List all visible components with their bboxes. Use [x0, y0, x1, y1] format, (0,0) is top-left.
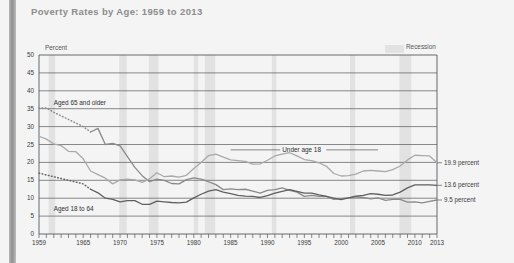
series-line — [91, 185, 437, 204]
poverty-rates-chart: Percent Recession 50454035302520151050 1… — [0, 36, 514, 261]
chart-plot-area — [0, 36, 514, 261]
x-tick-label: 2005 — [364, 239, 392, 246]
y-tick-label: 10 — [20, 194, 34, 201]
chart-page: Poverty Rates by Age: 1959 to 2013 Perce… — [0, 0, 514, 263]
y-tick-label: 50 — [20, 51, 34, 58]
x-tick-label: 2000 — [327, 239, 355, 246]
x-tick-label: 1980 — [180, 239, 208, 246]
y-tick-label: 40 — [20, 87, 34, 94]
end-value-label: 13.6 percent — [444, 181, 479, 188]
y-tick-label: 15 — [20, 176, 34, 183]
series-line — [91, 128, 437, 202]
series-label-aged-18-to-64: Aged 18 to 64 — [54, 205, 94, 212]
recession-legend-label: Recession — [406, 43, 436, 50]
y-tick-label: 20 — [20, 158, 34, 165]
x-tick-label: 1975 — [143, 239, 171, 246]
x-tick-label: 1959 — [25, 239, 53, 246]
y-tick-label: 25 — [20, 141, 34, 148]
series-line-dotted — [39, 173, 91, 189]
x-tick-label: 1985 — [217, 239, 245, 246]
y-tick-label: 45 — [20, 69, 34, 76]
y-tick-label: 35 — [20, 105, 34, 112]
series-line — [39, 136, 437, 184]
series-label-aged-65-and-older: Aged 65 and older — [54, 99, 106, 106]
series-label-under-age-18: Under age 18 — [282, 146, 321, 153]
x-tick-label: 1965 — [69, 239, 97, 246]
y-tick-label: 5 — [20, 212, 34, 219]
y-tick-label: 30 — [20, 123, 34, 130]
y-axis-title: Percent — [45, 44, 67, 51]
x-tick-label: 1990 — [253, 239, 281, 246]
x-tick-label: 1970 — [106, 239, 134, 246]
x-tick-label: 1995 — [290, 239, 318, 246]
series-line-dotted — [39, 108, 91, 132]
x-tick-label: 2013 — [423, 239, 451, 246]
page-title: Poverty Rates by Age: 1959 to 2013 — [31, 6, 203, 17]
y-tick-label: 0 — [20, 230, 34, 237]
end-value-label: 19.9 percent — [444, 159, 479, 166]
recession-legend-swatch — [385, 45, 404, 53]
end-value-label: 9.5 percent — [444, 196, 476, 203]
